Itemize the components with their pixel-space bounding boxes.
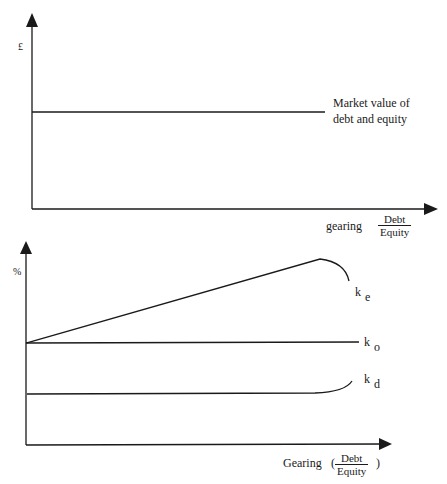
bottom-y-arrow-icon: [20, 241, 32, 254]
top-y-axis-label: £: [18, 40, 23, 53]
bottom-x-axis: [26, 444, 382, 445]
ke-curve: [26, 259, 349, 343]
bottom-x-arrow-icon: [379, 438, 392, 450]
ke-label-sub: e: [365, 290, 370, 304]
bottom-x-axis-label: Gearing: [283, 457, 322, 470]
bottom-fraction-numerator: Debt: [335, 452, 368, 465]
bottom-gearing-fraction: Debt Equity: [335, 452, 368, 477]
ko-label-sub: o: [374, 340, 380, 354]
top-x-arrow-icon: [424, 203, 438, 215]
market-value-label-line2: debt and equity: [333, 113, 407, 126]
top-x-axis-label: gearing: [326, 220, 362, 233]
kd-label-k: k: [364, 372, 370, 386]
kd-curve: [27, 381, 352, 394]
ko-label-k: k: [364, 335, 370, 349]
kd-label: kd: [364, 373, 380, 386]
ke-label-k: k: [355, 285, 361, 299]
top-fraction-numerator: Debt: [378, 213, 411, 226]
top-gearing-fraction: Debt Equity: [378, 213, 411, 238]
market-value-label-line1: Market value of: [333, 97, 410, 110]
kd-label-sub: d: [374, 377, 380, 391]
bottom-fraction-denominator: Equity: [335, 465, 368, 477]
close-paren: ): [376, 457, 380, 470]
ko-label: ko: [364, 336, 380, 349]
ko-line: [26, 342, 359, 343]
ke-label: ke: [355, 286, 370, 299]
top-y-arrow-icon: [26, 13, 38, 27]
bottom-y-axis-label: %: [13, 265, 21, 278]
diagram-canvas: [0, 0, 447, 484]
top-fraction-denominator: Equity: [378, 226, 411, 238]
